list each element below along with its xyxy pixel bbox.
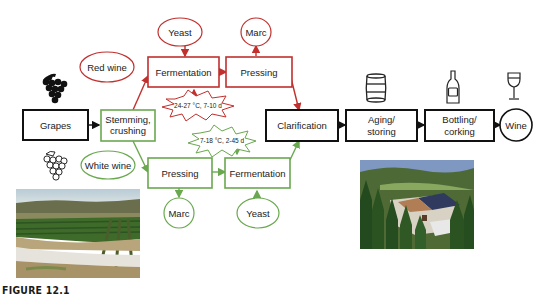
white-fermentation-label: Fermentation — [230, 168, 286, 179]
bottling-corking-box: Bottling/ corking — [425, 110, 494, 141]
white-wine-label: White wine — [85, 160, 131, 171]
white-pressing-label: Pressing — [162, 168, 199, 179]
red-fermentation-box: Fermentation — [148, 57, 219, 87]
vineyard-photo — [16, 189, 140, 278]
white-pressing-box: Pressing — [148, 158, 212, 188]
clarification-box: Clarification — [266, 110, 338, 141]
bottle-icon — [447, 71, 459, 103]
bottling-label: Bottling/ — [442, 114, 477, 125]
figure-caption: FIGURE 12.1 — [2, 284, 70, 297]
red-yeast-ellipse: Yeast — [158, 18, 202, 46]
winery-estate-photo — [360, 160, 474, 249]
red-fermentation-label: Fermentation — [156, 67, 212, 78]
aging-storing-box: Aging/ storing — [346, 110, 417, 141]
red-pressing-box: Pressing — [226, 57, 292, 87]
white-marc-label: Marc — [168, 208, 189, 219]
white-conditions-burst: 7-18 °C, 2-45 d — [188, 125, 256, 157]
aging-label: Aging/ — [368, 114, 395, 125]
red-conditions-burst: 24-27 °C, 7-10 d — [162, 90, 234, 121]
white-conditions-label: 7-18 °C, 2-45 d — [200, 137, 245, 144]
wine-label: Wine — [505, 120, 527, 131]
white-yeast-label: Yeast — [246, 208, 270, 219]
grapes-label: Grapes — [40, 120, 71, 131]
grapes-box: Grapes — [23, 110, 88, 140]
red-wine-label: Red wine — [87, 62, 127, 73]
stemming-crushing-box: Stemming, crushing — [101, 110, 155, 141]
barrel-icon — [366, 74, 386, 102]
corking-label: corking — [444, 126, 475, 137]
red-conditions-label: 24-27 °C, 7-10 d — [174, 102, 222, 109]
red-pressing-label: Pressing — [241, 67, 278, 78]
red-wine-ellipse: Red wine — [80, 52, 134, 82]
red-yeast-label: Yeast — [168, 27, 192, 38]
red-marc-label: Marc — [245, 27, 266, 38]
red-grapes-icon — [43, 74, 68, 104]
white-yeast-ellipse: Yeast — [237, 198, 279, 228]
white-wine-ellipse: White wine — [81, 151, 135, 179]
white-fermentation-box: Fermentation — [225, 158, 290, 188]
white-grapes-icon — [44, 151, 67, 180]
storing-label: storing — [367, 126, 396, 137]
wine-glass-icon — [508, 73, 520, 99]
clarification-label: Clarification — [277, 120, 327, 131]
stemming-label: Stemming, — [105, 114, 150, 125]
white-marc-ellipse: Marc — [164, 198, 194, 228]
red-marc-ellipse: Marc — [241, 18, 271, 46]
wine-circle: Wine — [500, 109, 532, 141]
crushing-label: crushing — [110, 125, 146, 136]
